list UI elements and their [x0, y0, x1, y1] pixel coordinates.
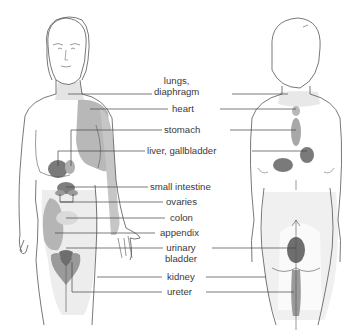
front-figure: [19, 17, 140, 325]
label-lungs-diaphragm: lungs, diaphragm: [152, 75, 201, 97]
label-ureter: ureter: [165, 286, 194, 297]
label-stomach: stomach: [162, 124, 202, 135]
label-bladder-line2: bladder: [165, 253, 197, 264]
label-liver-gallbladder: liver, gallbladder: [145, 145, 218, 156]
label-colon: colon: [168, 212, 195, 223]
label-small-intestine: small intestine: [148, 181, 213, 192]
label-urinary-bladder: urinary bladder: [163, 242, 199, 264]
body-figures: [0, 0, 361, 335]
label-urinary-line1: urinary: [165, 242, 197, 253]
referred-pain-diagram: lungs, diaphragm heart stomach liver, ga…: [0, 0, 361, 335]
label-heart: heart: [170, 103, 196, 114]
label-diaphragm-line2: diaphragm: [154, 86, 199, 97]
label-lungs-line1: lungs,: [154, 75, 199, 86]
label-appendix: appendix: [158, 227, 201, 238]
back-figure: [250, 18, 341, 330]
label-ovaries: ovaries: [164, 196, 199, 207]
label-kidney: kidney: [165, 271, 197, 282]
